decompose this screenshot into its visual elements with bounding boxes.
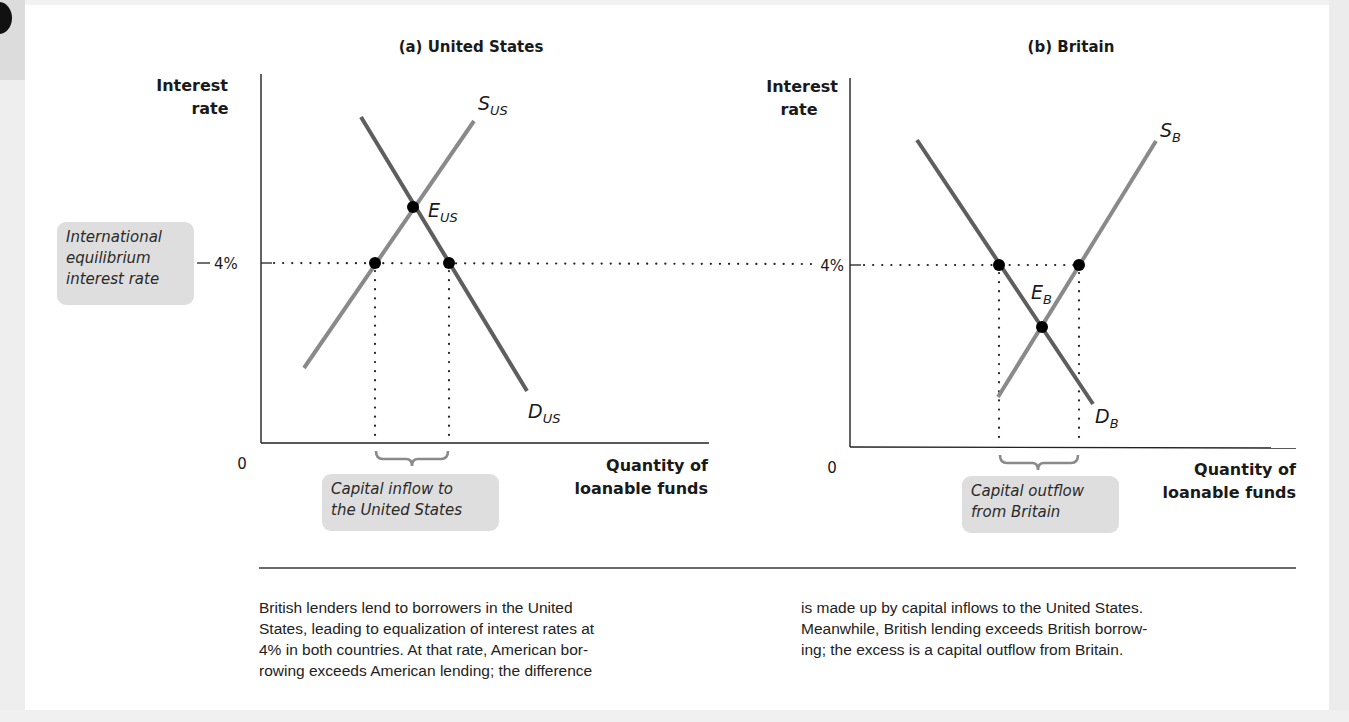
panel-a-demand-label: DUS [528,400,560,426]
capital-inflow-callout: Capital inflow to the United States [322,474,499,531]
panel-b-equilibrium-point [1036,321,1048,333]
callout-text: International [66,227,185,248]
caption-line: British lenders lend to borrowers in the… [259,597,729,618]
panel-a-supply-at-4pct-point [369,257,381,269]
panel-a-rate-tick: 4% [214,255,238,273]
callout-text: Capital outflow [971,481,1110,502]
panel-b-y-axis-label-2: rate [780,100,817,119]
panel-a-supply-curve [304,121,474,368]
panel-b-origin: 0 [827,459,837,477]
caption-line: States, leading to equalization of inter… [259,618,729,639]
panel-a-origin: 0 [237,455,247,473]
panel-b-rate-tick: 4% [820,257,844,275]
callout-text: equilibrium [66,248,185,269]
world-interest-rate-line [274,263,815,264]
panel-britain: (b) Britain Interest rate 0 Quantity of … [766,38,1297,502]
panel-a-y-axis-label-2: rate [191,99,228,118]
callout-text: Capital inflow to [331,479,490,500]
caption-line: rowing exceeds American lending; the dif… [259,660,729,681]
panel-b-title: (b) Britain [1028,38,1115,56]
caption-line: 4% in both countries. At that rate, Amer… [259,639,729,660]
panel-a-x-axis-label-2: loanable funds [574,479,708,498]
caption-line: Meanwhile, British lending exceeds Briti… [801,618,1281,639]
panel-b-capital-outflow-brace [1000,455,1078,470]
panel-a-y-axis-label: Interest [156,76,228,95]
panel-b-supply-label: SB [1160,119,1181,145]
panel-b-y-axis-label: Interest [766,77,838,96]
international-rate-callout: International equilibrium interest rate [57,222,194,305]
caption-left: British lenders lend to borrowers in the… [259,597,729,681]
panel-united-states: (a) United States Interest rate 0 Quanti… [156,38,815,498]
panel-b-supply-at-4pct-point [1073,259,1085,271]
panel-a-capital-inflow-brace [376,451,448,466]
callout-text: from Britain [971,502,1110,523]
caption-line: ing; the excess is a capital outflow fro… [801,639,1281,660]
panel-b-x-axis [850,447,1296,448]
panel-b-equilibrium-label: EB [1031,281,1052,307]
callout-text: interest rate [66,269,185,290]
panel-a-demand-curve [361,117,527,391]
panel-a-x-axis-label: Quantity of [606,456,709,475]
capital-outflow-callout: Capital outflow from Britain [962,476,1119,533]
panel-b-demand-at-4pct-point [993,259,1005,271]
panel-b-demand-label: DB [1095,405,1119,431]
panel-a-title: (a) United States [399,38,544,56]
caption-right: is made up by capital inflows to the Uni… [801,597,1281,660]
caption-divider [259,567,1296,569]
caption-line: is made up by capital inflows to the Uni… [801,597,1281,618]
panel-b-x-axis-label-2: loanable funds [1162,483,1296,502]
panel-b-x-axis-label: Quantity of [1194,460,1297,479]
panel-a-equilibrium-point [407,201,419,213]
panel-b-demand-curve [917,140,1093,404]
panel-a-equilibrium-label: EUS [428,199,458,225]
panel-a-supply-label: SUS [478,92,508,118]
panel-a-demand-at-4pct-point [443,257,455,269]
callout-text: the United States [331,500,490,521]
